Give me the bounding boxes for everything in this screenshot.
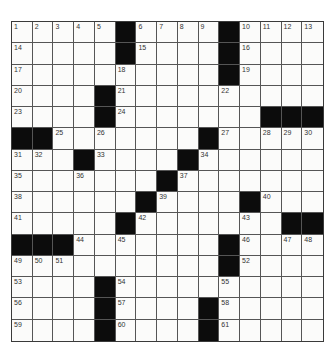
- grid-cell[interactable]: 44: [74, 235, 95, 256]
- grid-cell[interactable]: 10: [240, 22, 261, 43]
- grid-cell[interactable]: [199, 107, 220, 128]
- grid-cell[interactable]: 21: [116, 86, 137, 107]
- grid-cell[interactable]: 16: [240, 43, 261, 64]
- grid-cell[interactable]: [33, 277, 54, 298]
- grid-cell[interactable]: [178, 235, 199, 256]
- grid-cell[interactable]: 42: [136, 213, 157, 234]
- grid-cell[interactable]: 35: [12, 171, 33, 192]
- grid-cell[interactable]: 57: [116, 298, 137, 319]
- grid-cell[interactable]: [74, 65, 95, 86]
- grid-cell[interactable]: [178, 65, 199, 86]
- grid-cell[interactable]: [95, 43, 116, 64]
- grid-cell[interactable]: [33, 65, 54, 86]
- grid-cell[interactable]: [282, 298, 303, 319]
- grid-cell[interactable]: 11: [261, 22, 282, 43]
- grid-cell[interactable]: [240, 128, 261, 149]
- grid-cell[interactable]: 37: [178, 171, 199, 192]
- grid-cell[interactable]: [136, 107, 157, 128]
- grid-cell[interactable]: [240, 107, 261, 128]
- grid-cell[interactable]: 34: [199, 150, 220, 171]
- grid-cell[interactable]: [261, 256, 282, 277]
- grid-cell[interactable]: [302, 320, 323, 341]
- grid-cell[interactable]: 32: [33, 150, 54, 171]
- grid-cell[interactable]: [302, 192, 323, 213]
- grid-cell[interactable]: [53, 213, 74, 234]
- grid-cell[interactable]: [136, 298, 157, 319]
- grid-cell[interactable]: 1: [12, 22, 33, 43]
- grid-cell[interactable]: [33, 320, 54, 341]
- grid-cell[interactable]: [261, 43, 282, 64]
- grid-cell[interactable]: 46: [240, 235, 261, 256]
- grid-cell[interactable]: 30: [302, 128, 323, 149]
- grid-cell[interactable]: [53, 192, 74, 213]
- grid-cell[interactable]: [178, 128, 199, 149]
- grid-cell[interactable]: [302, 65, 323, 86]
- grid-cell[interactable]: [136, 150, 157, 171]
- grid-cell[interactable]: [136, 86, 157, 107]
- grid-cell[interactable]: [157, 128, 178, 149]
- grid-cell[interactable]: 36: [74, 171, 95, 192]
- grid-cell[interactable]: [33, 86, 54, 107]
- grid-cell[interactable]: [219, 192, 240, 213]
- grid-cell[interactable]: [53, 171, 74, 192]
- grid-cell[interactable]: [199, 277, 220, 298]
- grid-cell[interactable]: [74, 256, 95, 277]
- grid-cell[interactable]: 14: [12, 43, 33, 64]
- grid-cell[interactable]: [33, 213, 54, 234]
- grid-cell[interactable]: [157, 86, 178, 107]
- grid-cell[interactable]: [157, 298, 178, 319]
- grid-cell[interactable]: [33, 192, 54, 213]
- grid-cell[interactable]: [178, 107, 199, 128]
- grid-cell[interactable]: 45: [116, 235, 137, 256]
- grid-cell[interactable]: 7: [157, 22, 178, 43]
- grid-cell[interactable]: 48: [302, 235, 323, 256]
- grid-cell[interactable]: 49: [12, 256, 33, 277]
- grid-cell[interactable]: [302, 43, 323, 64]
- grid-cell[interactable]: [240, 277, 261, 298]
- grid-cell[interactable]: [199, 235, 220, 256]
- grid-cell[interactable]: 61: [219, 320, 240, 341]
- grid-cell[interactable]: 8: [178, 22, 199, 43]
- grid-cell[interactable]: [302, 171, 323, 192]
- grid-cell[interactable]: 56: [12, 298, 33, 319]
- grid-cell[interactable]: [157, 150, 178, 171]
- grid-cell[interactable]: [74, 192, 95, 213]
- grid-cell[interactable]: 39: [157, 192, 178, 213]
- grid-cell[interactable]: 43: [240, 213, 261, 234]
- grid-cell[interactable]: [136, 256, 157, 277]
- grid-cell[interactable]: [53, 150, 74, 171]
- grid-cell[interactable]: [178, 86, 199, 107]
- grid-cell[interactable]: 12: [282, 22, 303, 43]
- grid-cell[interactable]: [178, 43, 199, 64]
- grid-cell[interactable]: [157, 320, 178, 341]
- grid-cell[interactable]: [302, 277, 323, 298]
- grid-cell[interactable]: [95, 256, 116, 277]
- grid-cell[interactable]: [157, 43, 178, 64]
- grid-cell[interactable]: 18: [116, 65, 137, 86]
- grid-cell[interactable]: [53, 43, 74, 64]
- grid-cell[interactable]: 58: [219, 298, 240, 319]
- grid-cell[interactable]: [116, 256, 137, 277]
- grid-cell[interactable]: [240, 298, 261, 319]
- grid-cell[interactable]: [74, 107, 95, 128]
- grid-cell[interactable]: [178, 320, 199, 341]
- grid-cell[interactable]: 15: [136, 43, 157, 64]
- grid-cell[interactable]: 31: [12, 150, 33, 171]
- grid-cell[interactable]: 19: [240, 65, 261, 86]
- grid-cell[interactable]: [178, 256, 199, 277]
- grid-cell[interactable]: [261, 320, 282, 341]
- grid-cell[interactable]: [33, 171, 54, 192]
- grid-cell[interactable]: [53, 277, 74, 298]
- grid-cell[interactable]: [53, 86, 74, 107]
- grid-cell[interactable]: [178, 213, 199, 234]
- grid-cell[interactable]: 20: [12, 86, 33, 107]
- grid-cell[interactable]: [219, 150, 240, 171]
- grid-cell[interactable]: [261, 171, 282, 192]
- grid-cell[interactable]: [53, 65, 74, 86]
- grid-cell[interactable]: [282, 192, 303, 213]
- grid-cell[interactable]: 2: [33, 22, 54, 43]
- grid-cell[interactable]: [302, 256, 323, 277]
- grid-cell[interactable]: [157, 256, 178, 277]
- grid-cell[interactable]: [261, 235, 282, 256]
- grid-cell[interactable]: [302, 86, 323, 107]
